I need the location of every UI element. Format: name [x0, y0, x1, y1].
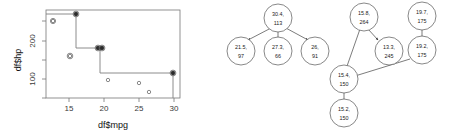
- graph-node-child-2[interactable]: 27.3, 66: [264, 37, 292, 65]
- node-circle: [330, 99, 358, 127]
- node-line1: 15.4,: [338, 72, 350, 78]
- node-line2: 97: [238, 53, 244, 59]
- data-point-filled: [100, 46, 104, 50]
- graph-node-bottom[interactable]: 15.2, 150: [330, 99, 358, 127]
- graph-node-right-child[interactable]: 13.3, 245: [375, 37, 403, 65]
- y-tick-label-200: 200: [28, 34, 37, 48]
- edge-root-to-child-3: [284, 27, 308, 40]
- node-line1: 13.3,: [383, 44, 395, 50]
- node-line2: 245: [385, 53, 394, 59]
- node-line2: 264: [360, 19, 369, 25]
- node-circle: [408, 36, 436, 64]
- node-circle: [264, 37, 292, 65]
- node-circle: [330, 65, 358, 93]
- graph-diagram-svg: 30.4, 113 21.5, 97 27.3, 66 26, 91: [226, 0, 452, 134]
- node-line1: 21.5,: [235, 44, 247, 50]
- graph-node-child-1[interactable]: 21.5, 97: [227, 37, 255, 65]
- plot-frame: [46, 10, 180, 98]
- node-circle: [408, 2, 436, 30]
- data-point-open: [68, 54, 71, 57]
- pareto-step-line: [46, 14, 173, 98]
- node-line2: 175: [418, 18, 427, 24]
- node-line1: 15.2,: [338, 106, 350, 112]
- node-line2: 150: [340, 81, 349, 87]
- x-tick-label-25: 25: [135, 104, 144, 113]
- y-axis-title: df$hp: [13, 49, 23, 72]
- node-circle: [264, 4, 292, 32]
- node-line1: 30.4,: [272, 11, 284, 17]
- graph-node-mid-right[interactable]: 19.2, 175: [408, 36, 436, 64]
- node-line2: 91: [312, 53, 318, 59]
- data-point-filled: [74, 12, 78, 16]
- y-tick-label-100: 100: [28, 72, 37, 86]
- node-line2: 150: [340, 115, 349, 121]
- data-point-filled: [171, 71, 175, 75]
- node-line1: 27.3,: [272, 44, 284, 50]
- screenshot-root: df$hp 200 100: [0, 0, 452, 134]
- x-tick-label-20: 20: [100, 104, 109, 113]
- x-tick-label-15: 15: [65, 104, 74, 113]
- node-circle: [227, 37, 255, 65]
- scatter-plot-svg: df$hp 200 100: [0, 0, 226, 134]
- node-line1: 19.7,: [416, 9, 428, 15]
- node-line1: 19.2,: [416, 43, 428, 49]
- graph-node-top-right[interactable]: 19.7, 175: [408, 2, 436, 30]
- node-line1: 15.8,: [358, 10, 370, 16]
- graph-node-child-3[interactable]: 26, 91: [301, 37, 329, 65]
- node-line2: 66: [275, 53, 281, 59]
- graph-node-lower-left[interactable]: 15.4, 150: [330, 65, 358, 93]
- data-point-open: [106, 78, 109, 81]
- data-point-open: [51, 19, 54, 22]
- data-point-open: [147, 90, 150, 93]
- node-circle: [301, 37, 329, 65]
- tree-right-group: 15.8, 264 13.3, 245 19.7, 175 19.2, 175: [330, 2, 436, 127]
- graph-node-root-right[interactable]: 15.8, 264: [350, 3, 378, 31]
- node-line2: 113: [274, 20, 283, 26]
- edge-root-to-right-child: [368, 29, 378, 40]
- node-circle: [375, 37, 403, 65]
- graph-diagram-panel: 30.4, 113 21.5, 97 27.3, 66 26, 91: [226, 0, 452, 134]
- graph-node-root-left[interactable]: 30.4, 113: [264, 4, 292, 32]
- node-line2: 175: [418, 52, 427, 58]
- x-tick-label-30: 30: [170, 104, 179, 113]
- x-axis-title: df$mpg: [98, 120, 128, 130]
- tree-left-group: 30.4, 113 21.5, 97 27.3, 66 26, 91: [227, 4, 329, 65]
- node-circle: [350, 3, 378, 31]
- node-line1: 26,: [311, 44, 319, 50]
- edge-root-to-lower-left: [346, 29, 360, 69]
- scatter-plot-panel: df$hp 200 100: [0, 0, 226, 134]
- data-point-open: [137, 81, 140, 84]
